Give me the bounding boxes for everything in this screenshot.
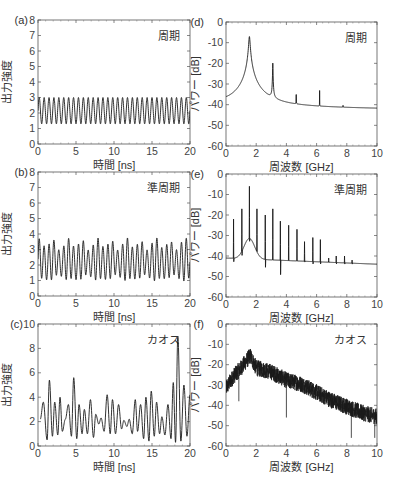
y-axis-title: 出力強度 bbox=[0, 363, 13, 407]
x-tick-label: 8 bbox=[344, 447, 350, 459]
x-tick-label: 0 bbox=[35, 297, 41, 309]
y-tick-label: 4 bbox=[29, 76, 35, 88]
y-tick-label: -10 bbox=[208, 36, 223, 48]
panel-a-periodic-time-series: 0510152001234567(a)8周期時間 [ns]出力強度 bbox=[0, 14, 196, 171]
y-tick-label: -50 bbox=[208, 119, 223, 131]
x-tick-label: 8 bbox=[344, 298, 350, 310]
data-trace bbox=[38, 98, 190, 124]
x-tick-label: 8 bbox=[344, 147, 350, 159]
figure-six-panel: 0510152001234567(a)8周期時間 [ns]出力強度 051015… bbox=[0, 0, 395, 479]
x-tick-label: 10 bbox=[371, 147, 383, 159]
x-axis-title: 周波数 [GHz] bbox=[269, 161, 333, 173]
y-tick-label: 1 bbox=[29, 274, 35, 286]
x-axis-title: 時間 [ns] bbox=[93, 159, 136, 171]
x-tick-label: 4 bbox=[283, 298, 289, 310]
x-tick-label: 0 bbox=[35, 447, 41, 459]
x-axis-title: 時間 [ns] bbox=[93, 311, 136, 323]
x-tick-label: 4 bbox=[283, 147, 289, 159]
y-tick-label: 4 bbox=[29, 391, 35, 403]
y-tick-label: -50 bbox=[208, 419, 223, 431]
regime-annotation: カオス bbox=[334, 334, 367, 346]
y-tick-label: 4 bbox=[29, 228, 35, 240]
x-tick-label: 15 bbox=[146, 297, 158, 309]
y-axis-title: パワー [dB] bbox=[189, 56, 201, 112]
y-tick-label: 0 bbox=[29, 138, 35, 150]
y-tick-label: 6 bbox=[29, 197, 35, 209]
regime-annotation: 準周期 bbox=[334, 183, 367, 196]
y-tick-label: -10 bbox=[208, 188, 223, 200]
x-tick-label: 15 bbox=[146, 447, 158, 459]
panel-d-periodic-spectrum: 02468100-10-20-30-40-50-60(d)周期周波数 [GHz]… bbox=[189, 16, 383, 174]
x-tick-label: 10 bbox=[371, 298, 383, 310]
y-tick-label: 3 bbox=[29, 243, 35, 255]
y-tick-label: 2 bbox=[29, 259, 35, 271]
y-tick-label: 0 bbox=[217, 318, 223, 330]
x-tick-label: 6 bbox=[314, 147, 320, 159]
x-tick-label: 5 bbox=[73, 297, 79, 309]
x-tick-label: 10 bbox=[108, 297, 120, 309]
y-tick-label: 8 bbox=[29, 342, 35, 354]
y-tick-label: 5 bbox=[29, 60, 35, 72]
x-axis-title: 時間 [ns] bbox=[93, 461, 136, 473]
y-tick-label: 10 bbox=[23, 318, 35, 330]
y-tick-label: 8 bbox=[29, 166, 35, 178]
y-tick-label: 0 bbox=[217, 168, 223, 180]
x-tick-label: 0 bbox=[223, 147, 229, 159]
panel-e-quasiperiodic-spectrum: 02468100-10-20-30-40-50-60(e)準周期周波数 [GHz… bbox=[189, 168, 383, 325]
y-tick-label: -40 bbox=[208, 250, 223, 262]
panel-f-chaos-spectrum: 02468100-10-20-30-40-50-60(f)カオス周波数 [GHz… bbox=[189, 318, 383, 474]
y-tick-label: 2 bbox=[29, 107, 35, 119]
x-tick-label: 2 bbox=[253, 147, 259, 159]
data-trace bbox=[38, 238, 190, 281]
panel-c-chaos-time-series: 0510152002468(c)10カオス時間 [ns]出力強度 bbox=[0, 318, 196, 473]
y-tick-label: -20 bbox=[208, 57, 223, 69]
x-tick-label: 0 bbox=[35, 145, 41, 157]
y-tick-label: -20 bbox=[208, 209, 223, 221]
y-axis-title: 出力強度 bbox=[0, 60, 13, 104]
x-tick-label: 6 bbox=[314, 447, 320, 459]
x-tick-label: 2 bbox=[253, 447, 259, 459]
y-axis-title: 出力強度 bbox=[0, 212, 13, 256]
panel-label: (c) bbox=[10, 318, 23, 330]
x-tick-label: 5 bbox=[73, 447, 79, 459]
y-tick-label: 3 bbox=[29, 91, 35, 103]
x-tick-label: 10 bbox=[108, 145, 120, 157]
y-tick-label: -60 bbox=[208, 140, 223, 152]
y-tick-label: 0 bbox=[29, 440, 35, 452]
y-tick-label: 0 bbox=[29, 290, 35, 302]
y-tick-label: -30 bbox=[208, 379, 223, 391]
panel-b-quasiperiodic-time-series: 0510152001234567(b)8準周期時間 [ns]出力強度 bbox=[0, 166, 196, 323]
y-tick-label: -10 bbox=[208, 338, 223, 350]
y-tick-label: 7 bbox=[29, 29, 35, 41]
regime-annotation: カオス bbox=[147, 334, 180, 346]
x-tick-label: 20 bbox=[184, 145, 196, 157]
data-trace bbox=[226, 186, 377, 274]
x-tick-label: 10 bbox=[108, 447, 120, 459]
y-tick-label: -50 bbox=[208, 270, 223, 282]
y-tick-label: 5 bbox=[29, 212, 35, 224]
regime-annotation: 周期 bbox=[345, 32, 367, 44]
x-tick-label: 20 bbox=[184, 447, 196, 459]
x-tick-label: 4 bbox=[283, 447, 289, 459]
y-tick-label: -60 bbox=[208, 440, 223, 452]
panel-label: (e) bbox=[191, 168, 204, 180]
x-tick-label: 2 bbox=[253, 298, 259, 310]
panel-label: (a) bbox=[15, 14, 28, 26]
y-tick-label: 7 bbox=[29, 181, 35, 193]
x-axis-title: 周波数 [GHz] bbox=[269, 461, 333, 473]
data-trace bbox=[40, 336, 190, 442]
y-axis-title: パワー [dB] bbox=[189, 357, 201, 413]
y-tick-label: -60 bbox=[208, 291, 223, 303]
y-tick-label: 0 bbox=[217, 16, 223, 28]
y-tick-label: -40 bbox=[208, 399, 223, 411]
y-tick-label: 6 bbox=[29, 45, 35, 57]
y-tick-label: -30 bbox=[208, 78, 223, 90]
y-axis-title: パワー [dB] bbox=[189, 208, 201, 264]
panel-label: (d) bbox=[191, 16, 204, 28]
x-tick-label: 10 bbox=[371, 447, 383, 459]
data-trace bbox=[226, 349, 377, 425]
x-tick-label: 15 bbox=[146, 145, 158, 157]
regime-annotation: 周期 bbox=[158, 30, 180, 42]
x-tick-label: 0 bbox=[223, 447, 229, 459]
x-tick-label: 0 bbox=[223, 298, 229, 310]
